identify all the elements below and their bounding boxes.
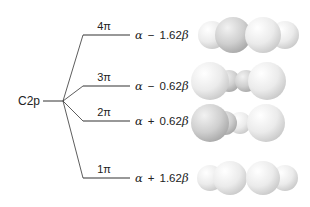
level-label-2pi: 2π — [97, 106, 111, 118]
beta-symbol: β — [182, 79, 189, 93]
coefficient: 0.62 — [160, 80, 182, 92]
energy-4pi: α−1.62β — [135, 29, 189, 41]
sign: − — [148, 29, 155, 41]
beta-symbol: β — [182, 171, 189, 185]
energy-1pi: α+1.62β — [135, 172, 189, 184]
alpha-symbol: α — [135, 171, 143, 185]
coefficient: 0.62 — [160, 115, 182, 127]
c2p-label: C2p — [18, 95, 40, 107]
orbital-image-1pi — [197, 161, 298, 195]
alpha-symbol: α — [135, 79, 143, 93]
alpha-symbol: α — [135, 28, 143, 42]
sign: + — [148, 115, 155, 127]
level-label-1pi: 1π — [97, 163, 111, 175]
level-label-4pi: 4π — [97, 20, 111, 32]
orbital-image-3pi — [191, 62, 286, 100]
coefficient: 1.62 — [160, 172, 182, 184]
alpha-symbol: α — [135, 114, 143, 128]
sign: + — [148, 172, 155, 184]
connector-1pi — [63, 101, 83, 178]
orbital-image-4pi — [198, 17, 299, 53]
connector-4pi — [63, 35, 83, 101]
connector-3pi — [63, 86, 83, 101]
energy-2pi: α+0.62β — [135, 115, 189, 127]
orbital-image-2pi — [191, 104, 285, 142]
sign: − — [148, 80, 155, 92]
beta-symbol: β — [182, 114, 189, 128]
energy-3pi: α−0.62β — [135, 80, 189, 92]
level-label-3pi: 3π — [97, 71, 111, 83]
beta-symbol: β — [182, 28, 189, 42]
coefficient: 1.62 — [160, 29, 182, 41]
